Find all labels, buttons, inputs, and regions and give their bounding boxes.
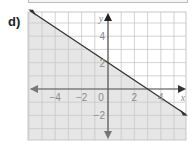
y-tick-label: 4 (99, 31, 105, 42)
x-tick-label: 2 (132, 92, 138, 103)
y-tick-label: −2 (94, 110, 106, 121)
x-tick-label: −4 (49, 92, 61, 103)
y-tick-label: 2 (99, 58, 105, 69)
inequality-graph: −4−202442−2xy (0, 0, 194, 150)
y-axis-label: y (98, 13, 104, 24)
x-tick-label: 0 (98, 92, 104, 103)
x-tick-label: 4 (158, 92, 164, 103)
y-axis-arrow-up-icon (104, 13, 112, 21)
x-axis-label: x (180, 92, 186, 103)
x-tick-label: −2 (76, 92, 88, 103)
